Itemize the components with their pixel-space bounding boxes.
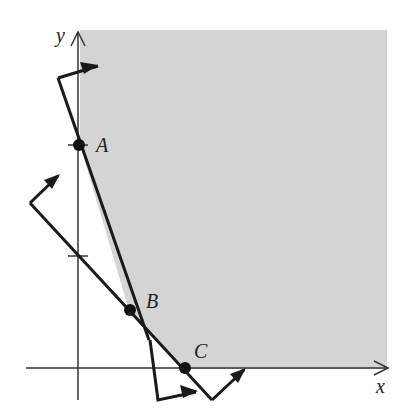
point-c [179, 362, 191, 374]
point-a-label: A [94, 134, 109, 156]
x-axis-label: x [375, 375, 385, 397]
y-axis-label: y [54, 24, 65, 47]
point-c-label: C [194, 340, 208, 362]
shaded-region [80, 30, 387, 369]
point-b-label: B [146, 290, 158, 312]
feasible-region-diagram: y x A B C [0, 0, 404, 418]
arrow-head-icon [180, 385, 198, 398]
point-a [73, 139, 85, 151]
point-b [124, 304, 136, 316]
